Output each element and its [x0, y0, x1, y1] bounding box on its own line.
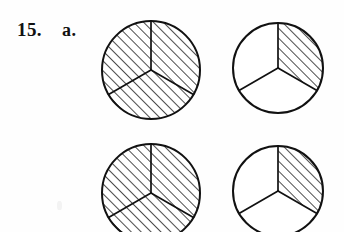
exercise-number-label: 15. — [17, 19, 42, 41]
bottom-left-circle — [98, 140, 204, 232]
paper-smudge — [57, 201, 62, 210]
top-right-circle — [229, 19, 327, 117]
exercise-figure-page: 15. a. — [0, 0, 344, 232]
bottom-right-circle — [229, 142, 327, 232]
top-left-circle — [98, 17, 204, 123]
exercise-part-label: a. — [62, 20, 76, 41]
